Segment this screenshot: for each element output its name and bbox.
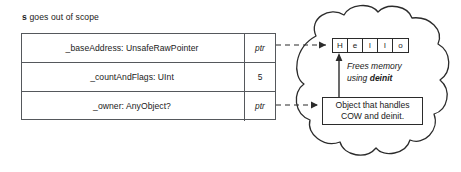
object-box-line-2: COW and deinit.: [335, 111, 409, 123]
string-buffer-cells: H e l l o: [332, 38, 409, 53]
arrow-baseaddress-to-buffer: [276, 42, 328, 49]
buffer-char-2: l: [363, 39, 378, 52]
frees-line-1: Frees memory: [347, 61, 402, 71]
frees-line-2-keyword: deinit: [370, 73, 393, 83]
field-value-baseaddress: ptr: [244, 34, 275, 62]
diagram-caption: s goes out of scope: [22, 12, 99, 23]
table-row: _owner: AnyObject? ptr: [22, 92, 275, 121]
field-name-countandflags: _countAndFlags: UInt: [22, 72, 244, 83]
buffer-char-4: o: [393, 39, 408, 52]
arrow-owner-to-object: [276, 102, 318, 109]
object-box-line-1: Object that handles: [335, 100, 409, 112]
table-row: _countAndFlags: UInt 5: [22, 63, 275, 92]
memory-diagram: s goes out of scope _baseAddress: Unsafe…: [0, 0, 461, 172]
buffer-char-3: l: [378, 39, 393, 52]
caption-text: goes out of scope: [27, 12, 99, 22]
frees-memory-annotation: Frees memory using deinit: [347, 61, 427, 84]
buffer-char-0: H: [333, 39, 348, 52]
frees-line-2-prefix: using: [347, 73, 370, 83]
cow-object-box: Object that handles COW and deinit.: [322, 97, 423, 125]
field-value-countandflags: 5: [244, 63, 275, 91]
table-row: _baseAddress: UnsafeRawPointer ptr: [22, 34, 275, 63]
field-name-baseaddress: _baseAddress: UnsafeRawPointer: [22, 43, 244, 54]
arrow-object-to-buffer: [336, 53, 343, 97]
field-name-owner: _owner: AnyObject?: [22, 101, 244, 112]
field-value-owner: ptr: [244, 92, 275, 121]
buffer-char-1: e: [348, 39, 363, 52]
string-struct-table: _baseAddress: UnsafeRawPointer ptr _coun…: [21, 33, 276, 120]
